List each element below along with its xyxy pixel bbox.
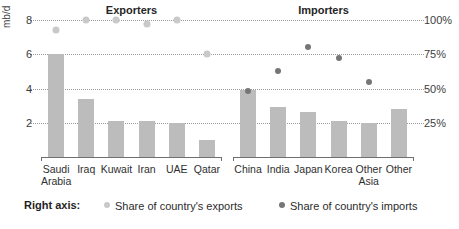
y-axis-tick-right: 25%	[424, 117, 458, 128]
axis-end-stub	[41, 157, 42, 161]
panel-baseline	[41, 157, 222, 158]
y-axis-tick-right: 50%	[424, 83, 458, 94]
category-label-other: Other	[386, 163, 412, 175]
axis-end-stub	[413, 157, 414, 161]
panel-heading-exporters: Exporters	[41, 4, 222, 16]
axis-end-stub	[233, 157, 234, 161]
bar-japan	[300, 112, 316, 157]
legend-label-imports: Share of country's imports	[290, 200, 417, 212]
bar-korea	[331, 121, 347, 157]
legend-entry-imports: Share of country's imports	[279, 199, 417, 212]
category-label-india: India	[267, 163, 290, 175]
legend: Right axis: Share of country's exports S…	[24, 198, 444, 214]
panel-heading-importers: Importers	[233, 4, 414, 16]
legend-title: Right axis:	[24, 199, 80, 211]
y-axis-tick-right: 100%	[424, 15, 458, 26]
category-label-korea: Korea	[325, 163, 353, 175]
legend-label-exports: Share of country's exports	[115, 200, 242, 212]
category-label-uae: UAE	[166, 163, 188, 175]
gridline	[30, 89, 424, 90]
category-label-iraq: Iraq	[77, 163, 95, 175]
category-label-qatar: Qatar	[194, 163, 220, 175]
datapoint-korea	[336, 55, 342, 61]
gridline	[30, 54, 424, 55]
panel-baseline	[233, 157, 414, 158]
category-label-saudi-arabia: SaudiArabia	[41, 163, 71, 187]
legend-marker-exports-icon	[104, 202, 110, 208]
y-axis-tick-left: 8	[10, 15, 32, 26]
category-label-china: China	[234, 163, 261, 175]
datapoint-uae	[173, 17, 180, 24]
bar-iraq	[78, 99, 94, 157]
bar-qatar	[199, 140, 215, 157]
bar-other	[391, 109, 407, 157]
bar-kuwait	[108, 121, 124, 157]
y-axis-tick-right: 75%	[424, 49, 458, 60]
legend-marker-imports-icon	[279, 202, 285, 208]
category-label-kuwait: Kuwait	[101, 163, 133, 175]
datapoint-saudi-arabia	[53, 26, 60, 33]
bar-iran	[139, 121, 155, 157]
datapoint-other-asia	[366, 79, 372, 85]
datapoint-india	[275, 68, 281, 74]
y-axis-tick-left: 2	[10, 117, 32, 128]
datapoint-iran	[143, 21, 150, 28]
datapoint-kuwait	[113, 17, 120, 24]
datapoint-qatar	[203, 51, 210, 58]
category-label-iran: Iran	[138, 163, 156, 175]
datapoint-iraq	[83, 17, 90, 24]
datapoint-japan	[305, 44, 311, 50]
bar-saudi-arabia	[48, 54, 64, 157]
y-axis-tick-left: 4	[10, 83, 32, 94]
category-label-japan: Japan	[294, 163, 323, 175]
legend-entry-exports: Share of country's exports	[104, 199, 242, 212]
bar-uae	[169, 123, 185, 157]
bar-india	[270, 107, 286, 157]
bar-other-asia	[361, 123, 377, 157]
category-label-other-asia: OtherAsia	[356, 163, 382, 187]
y-axis-tick-left: 6	[10, 49, 32, 60]
chart-figure: mb/d 225%450%675%8100%ExportersSaudiArab…	[0, 0, 459, 229]
axis-end-stub	[221, 157, 222, 161]
bar-china	[240, 90, 256, 157]
datapoint-china	[245, 88, 251, 94]
